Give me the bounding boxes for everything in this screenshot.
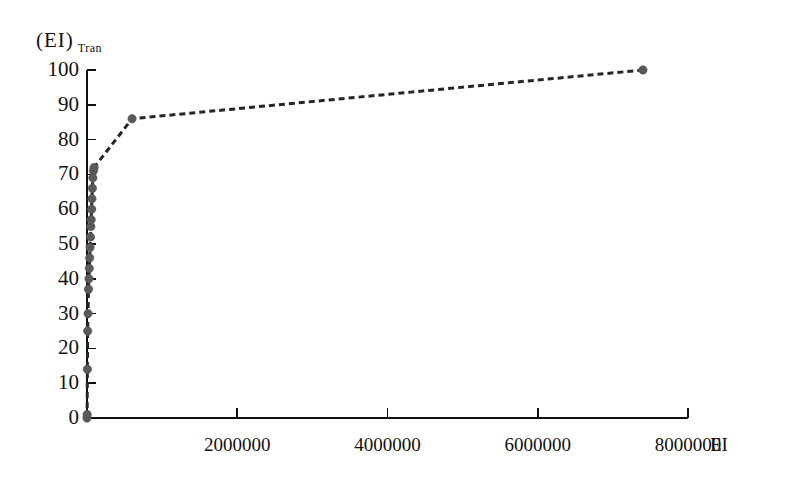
data-point-marker xyxy=(88,195,96,203)
data-point-marker xyxy=(87,215,95,223)
y-axis-tick-label: 20 xyxy=(35,337,79,358)
data-point-marker xyxy=(86,233,94,241)
y-axis-unit-subscript: Tran xyxy=(78,41,102,55)
y-axis-tick-label: 90 xyxy=(35,94,79,115)
data-point-marker xyxy=(88,184,96,192)
y-axis-tick-label: 0 xyxy=(35,407,79,428)
data-point-marker xyxy=(86,254,94,262)
y-axis-tick-label: 40 xyxy=(35,268,79,289)
series-polyline xyxy=(87,70,643,418)
data-point-marker xyxy=(639,66,647,74)
data-point-marker xyxy=(83,327,91,335)
data-point-marker xyxy=(90,163,98,171)
data-point-marker xyxy=(86,243,94,251)
data-point-marker xyxy=(84,309,92,317)
plot-area xyxy=(0,0,796,478)
y-axis-tick-label: 50 xyxy=(35,233,79,254)
data-point-marker xyxy=(87,205,95,213)
x-axis-tick-label: 6000000 xyxy=(473,435,603,454)
y-axis-tick-label: 60 xyxy=(35,198,79,219)
y-axis-tick-label: 30 xyxy=(35,303,79,324)
y-axis-tick-label: 80 xyxy=(35,129,79,150)
data-point-marker xyxy=(83,365,91,373)
series-markers xyxy=(83,66,647,422)
axis-lines xyxy=(87,70,688,418)
y-axis-unit-label: (EI)Tran xyxy=(36,30,102,54)
y-axis-unit-text: (EI) xyxy=(36,28,74,52)
chart-figure: (EI)Tran 1009080706050403020100 20000004… xyxy=(0,0,796,478)
y-axis-tick-label: 10 xyxy=(35,372,79,393)
series-line xyxy=(87,70,643,418)
x-axis-tick-label: 2000000 xyxy=(172,435,302,454)
data-point-marker xyxy=(85,264,93,272)
y-axis-tick-label: 70 xyxy=(35,163,79,184)
data-point-marker xyxy=(84,285,92,293)
x-axis-tick-label: 4000000 xyxy=(323,435,453,454)
x-axis-tick-label: 8000000 xyxy=(623,435,753,454)
y-axis-tick-label: 100 xyxy=(35,59,79,80)
data-point-marker xyxy=(85,275,93,283)
x-axis-unit-label: EI xyxy=(710,435,728,454)
data-point-marker xyxy=(128,115,136,123)
data-point-marker xyxy=(83,410,91,418)
